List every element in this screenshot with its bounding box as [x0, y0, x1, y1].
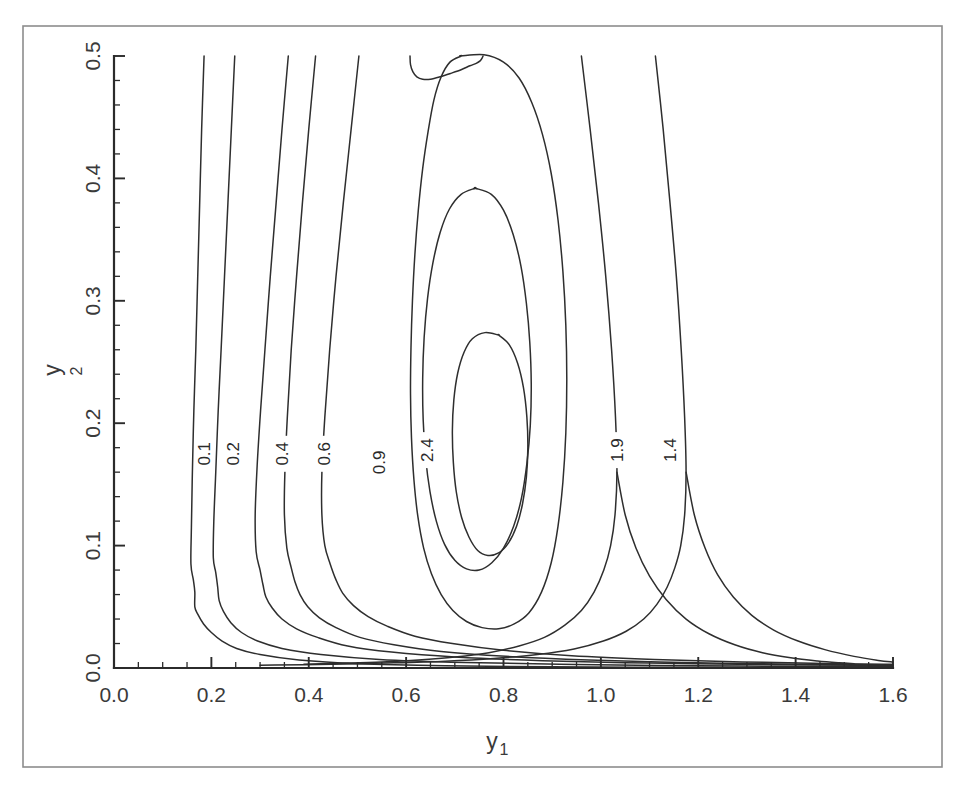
x-tick-label: 0.2 [197, 683, 226, 706]
contour-line [686, 472, 893, 662]
x-tick-label: 1.2 [684, 683, 713, 706]
contour-line [191, 56, 893, 668]
contour-label: 0.4 [273, 436, 292, 472]
contour-label: 0.6 [315, 436, 334, 472]
x-axis-title-base: y [486, 728, 498, 754]
x-axis-title: y 1 [486, 728, 508, 758]
contour-label: 0.2 [224, 436, 243, 472]
contour-label-text: 0.9 [370, 451, 389, 475]
contour-line [322, 56, 893, 664]
contour-label-text: 0.4 [273, 442, 292, 466]
y-tick-label: 0.1 [81, 531, 104, 560]
contour-labels-group: 0.10.20.40.60.92.41.91.4 [195, 432, 680, 480]
contour-line [617, 472, 854, 664]
contour-label: 0.1 [195, 436, 214, 472]
y-tick-label: 0.2 [81, 409, 104, 438]
contour-line [260, 56, 686, 665]
contour-line [255, 56, 893, 666]
x-axis-tick-labels: 0.00.20.40.60.81.01.21.41.6 [99, 683, 907, 706]
y-tick-label: 0.4 [81, 163, 104, 193]
contour-label: 2.4 [418, 432, 437, 468]
x-axis-title-subscript: 1 [500, 741, 509, 758]
contour-line-group [191, 54, 893, 667]
contour-label: 1.9 [608, 432, 627, 468]
x-tick-label: 0.0 [99, 683, 128, 706]
y-tick-label: 0.0 [81, 653, 104, 682]
contour-label: 0.9 [370, 444, 389, 480]
x-tick-label: 0.8 [489, 683, 518, 706]
contour-line [213, 56, 893, 667]
contour-plot-svg: 0.00.20.40.60.81.01.21.41.6 0.00.10.20.3… [0, 0, 963, 789]
x-tick-label: 1.4 [781, 683, 811, 706]
y-tick-label: 0.3 [81, 286, 104, 315]
y-axis-title: y 2 [39, 364, 85, 376]
contour-line [284, 56, 893, 665]
contour-line [410, 54, 566, 629]
y-tick-label: 0.5 [81, 41, 104, 70]
y-axis-title-base: y [39, 364, 65, 376]
x-tick-label: 0.4 [294, 683, 324, 706]
y-axis-title-subscript: 2 [68, 366, 85, 375]
x-tick-label: 1.6 [878, 683, 907, 706]
contour-label-text: 0.1 [195, 442, 214, 466]
contour-label-text: 2.4 [418, 438, 437, 462]
contour-label-text: 0.2 [224, 442, 243, 466]
contour-plot-figure: 0.00.20.40.60.81.01.21.41.6 0.00.10.20.3… [0, 0, 963, 789]
x-tick-label: 0.6 [392, 683, 421, 706]
x-tick-label: 1.0 [586, 683, 615, 706]
contour-label-text: 0.6 [315, 442, 334, 466]
contour-label-text: 1.4 [661, 438, 680, 462]
figure-border [23, 26, 942, 767]
contour-line [452, 333, 527, 556]
y-axis-tick-labels: 0.00.10.20.30.40.5 [81, 41, 104, 682]
y-axis-ticks [114, 56, 125, 668]
contour-label: 1.4 [661, 432, 680, 468]
contour-label-text: 1.9 [608, 438, 627, 462]
contour-line [423, 187, 532, 570]
